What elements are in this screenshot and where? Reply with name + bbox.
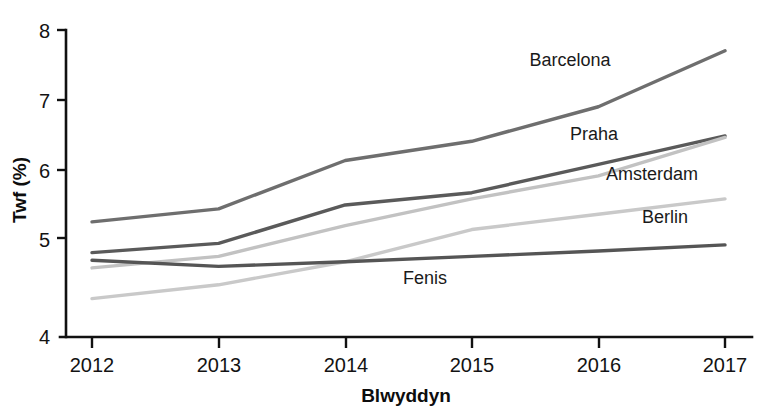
data-line-fenis <box>92 245 725 266</box>
y-tick-label-8: 8 <box>39 20 50 42</box>
chart-page: Twf (%) 8 7 6 5 4 2012 2013 2014 2015 20… <box>0 0 760 410</box>
x-tick-label-2017: 2017 <box>703 354 748 376</box>
y-tick-label-4: 4 <box>39 326 50 348</box>
x-tick-label-2014: 2014 <box>324 354 369 376</box>
series-label-fenis: Fenis <box>403 268 447 288</box>
x-axis-title: Blwyddyn <box>361 385 451 406</box>
y-axis-title: Twf (%) <box>9 157 30 223</box>
x-tick-label-2012: 2012 <box>70 354 115 376</box>
data-line-barcelona <box>92 51 725 222</box>
series-label-barcelona: Barcelona <box>529 50 611 70</box>
line-chart: Twf (%) 8 7 6 5 4 2012 2013 2014 2015 20… <box>0 0 760 410</box>
series-label-amsterdam: Amsterdam <box>606 164 698 184</box>
x-tick-label-2013: 2013 <box>197 354 242 376</box>
series-label-berlin: Berlin <box>642 207 688 227</box>
x-tick-label-2015: 2015 <box>450 354 495 376</box>
x-tick-label-2016: 2016 <box>577 354 622 376</box>
y-tick-label-6: 6 <box>39 160 50 182</box>
data-line-praha <box>92 136 725 253</box>
y-tick-label-5: 5 <box>39 229 50 251</box>
series-label-praha: Praha <box>570 124 619 144</box>
y-tick-label-7: 7 <box>39 90 50 112</box>
